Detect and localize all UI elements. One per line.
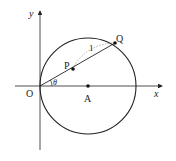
angle-arc <box>51 80 53 86</box>
label-x: x <box>153 88 159 99</box>
label-p: P <box>64 60 70 71</box>
point-p <box>71 67 75 71</box>
label-a: A <box>84 93 92 104</box>
label-arc-length: 1 <box>89 43 94 53</box>
label-y: y <box>28 8 34 19</box>
segment-oq <box>40 43 115 86</box>
label-q: Q <box>116 33 124 44</box>
diagram-svg: y x O A P Q θ 1 <box>0 0 176 161</box>
label-theta: θ <box>53 78 57 87</box>
diagram: y x O A P Q θ 1 <box>0 0 176 161</box>
label-o: O <box>26 88 33 99</box>
point-a <box>86 84 90 88</box>
